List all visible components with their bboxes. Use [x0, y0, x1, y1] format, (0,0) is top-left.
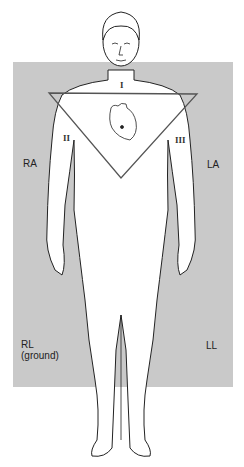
- electrode-la-label: LA: [207, 159, 219, 170]
- lead-III-label: III: [175, 135, 186, 145]
- einthoven-diagram: I II III RA LA RL (ground) LL: [0, 0, 244, 467]
- electrode-rl-label: RL: [21, 339, 34, 350]
- electrode-rl-ground-note: (ground): [21, 350, 59, 361]
- lead-II-label: II: [63, 133, 70, 143]
- body-figure: [0, 0, 244, 467]
- electrode-ll-label: LL: [206, 340, 217, 351]
- lead-I-label: I: [120, 80, 124, 90]
- electrode-ra-label: RA: [23, 158, 37, 169]
